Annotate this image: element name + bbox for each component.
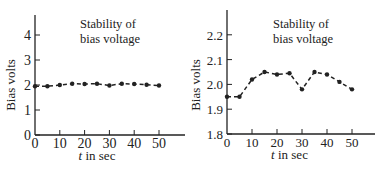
chart-left: 0123401020304050Stability ofbias voltage… bbox=[3, 15, 185, 163]
x-tick-label: 50 bbox=[152, 136, 166, 151]
data-point bbox=[250, 77, 254, 81]
data-point bbox=[237, 95, 241, 99]
data-point bbox=[157, 83, 161, 87]
x-axis-label: t in sec bbox=[79, 148, 116, 163]
data-point bbox=[144, 83, 148, 87]
x-axis-label: t in sec bbox=[271, 147, 308, 162]
x-tick-label: 0 bbox=[32, 136, 39, 151]
y-tick-label: 1 bbox=[24, 103, 31, 118]
data-point bbox=[58, 83, 62, 87]
y-tick-label: 2.2 bbox=[207, 28, 223, 43]
data-point bbox=[262, 70, 266, 74]
data-point bbox=[312, 70, 316, 74]
data-point bbox=[337, 80, 341, 84]
x-tick-label: 40 bbox=[321, 135, 334, 150]
x-tick-label: 10 bbox=[53, 136, 67, 151]
charts-canvas: 0123401020304050Stability ofbias voltage… bbox=[0, 0, 385, 174]
data-point bbox=[33, 84, 37, 88]
series-line bbox=[227, 72, 352, 97]
y-tick-label: 2.0 bbox=[207, 77, 223, 92]
data-point bbox=[107, 83, 111, 87]
x-tick-label: 40 bbox=[127, 136, 141, 151]
data-point bbox=[300, 87, 304, 91]
chart-right: 1.81.92.02.12.201020304050Stability ofbi… bbox=[188, 10, 375, 162]
data-point bbox=[275, 72, 279, 76]
y-tick-label: 1.8 bbox=[207, 127, 223, 142]
data-point bbox=[45, 84, 49, 88]
data-point bbox=[120, 82, 124, 86]
data-point bbox=[287, 71, 291, 75]
chart-title: Stability of bbox=[80, 17, 137, 31]
x-tick-label: 10 bbox=[246, 135, 259, 150]
data-point bbox=[325, 72, 329, 76]
y-tick-label: 2.1 bbox=[207, 53, 223, 68]
y-tick-label: 2 bbox=[24, 78, 31, 93]
chart-title: bias voltage bbox=[80, 32, 141, 46]
y-tick-label: 0 bbox=[24, 128, 31, 143]
data-point bbox=[95, 82, 99, 86]
data-point bbox=[350, 87, 354, 91]
y-tick-label: 4 bbox=[24, 28, 31, 43]
x-tick-label: 50 bbox=[346, 135, 359, 150]
y-tick-label: 3 bbox=[24, 53, 31, 68]
data-point bbox=[70, 82, 74, 86]
y-tick-label: 1.9 bbox=[207, 102, 223, 117]
x-tick-label: 0 bbox=[224, 135, 231, 150]
data-point bbox=[132, 82, 136, 86]
data-point bbox=[82, 82, 86, 86]
y-axis-label: Bias volts bbox=[188, 59, 203, 111]
chart-title: bias voltage bbox=[273, 32, 334, 46]
chart-title: Stability of bbox=[273, 17, 330, 31]
data-point bbox=[225, 95, 229, 99]
y-axis-label: Bias volts bbox=[3, 59, 18, 111]
